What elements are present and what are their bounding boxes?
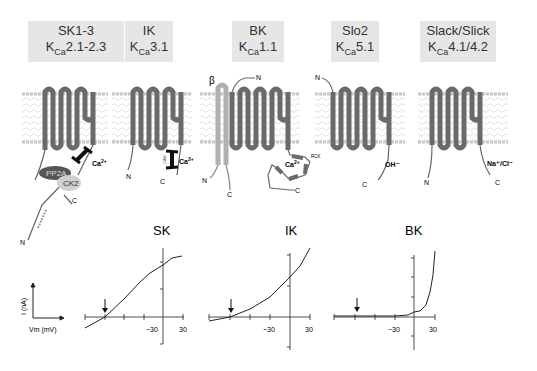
slo2-c-terminus: C	[362, 181, 367, 188]
x-axis-legend-label: Vm (mV)	[29, 326, 57, 334]
bk-beta-c: C	[227, 191, 232, 198]
y-axis-legend-label: I (nA)	[20, 298, 28, 315]
ik-c-terminus: C	[160, 178, 165, 185]
calmodulin-icon-ik	[166, 151, 178, 168]
ik-iv-plot: −30 30	[209, 248, 313, 350]
sk-n-terminus: N	[20, 239, 25, 246]
axes-legend	[31, 283, 64, 320]
sk-c-terminus: C	[72, 197, 77, 204]
beta-label: β	[209, 75, 215, 86]
ik-n-terminus: N	[126, 173, 131, 180]
sk-tick-30: 30	[179, 326, 187, 333]
ca-label-sk: Ca2+	[92, 158, 107, 167]
cam-label: CAM	[162, 155, 167, 164]
channel-diagram: PP2A CK2 Ca2+ C N CAM Ca2+ N C β N C N	[0, 0, 537, 371]
ik-plot-title: IK	[285, 223, 298, 238]
sk-tick-neg30: −30	[146, 326, 158, 333]
ik-tick-30: 30	[305, 326, 313, 333]
bk-n-terminus: N	[256, 74, 261, 81]
ik-tick-neg30: −30	[263, 326, 275, 333]
bk-plot-title: BK	[405, 223, 423, 238]
oh-label: OH⁻	[385, 161, 400, 168]
bk-iv-plot: −30 30	[334, 251, 437, 350]
bk-c-terminus: C	[295, 187, 300, 194]
rck-label: RCK	[311, 154, 321, 159]
slack-c-terminus: C	[495, 179, 500, 186]
ca-label-ik: Ca2+	[179, 156, 194, 165]
sk-plot-title: SK	[153, 223, 171, 238]
slack-n-terminus: N	[424, 179, 429, 186]
sk-iv-plot: −30 30	[85, 248, 187, 344]
bk-beta-n: N	[202, 177, 207, 184]
bk-tick-30: 30	[429, 326, 437, 333]
bk-tick-neg30: −30	[388, 326, 400, 333]
slo2-n-terminus: N	[315, 74, 320, 81]
ca-label-bk: Ca2+	[285, 159, 300, 168]
ck2-label: CK2	[63, 179, 79, 188]
nacl-label: Na⁺/Cl⁻	[487, 160, 513, 167]
